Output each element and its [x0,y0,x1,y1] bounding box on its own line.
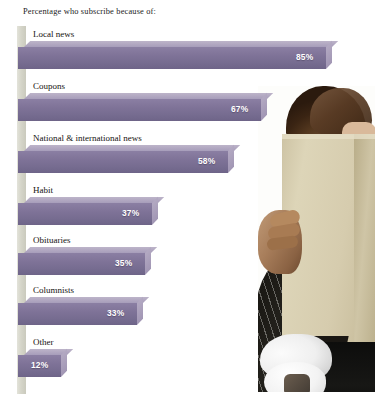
bar: 33% [18,297,143,325]
bar-value-label: 35% [115,258,132,268]
bar-category-label: Columnists [33,285,74,295]
bar-front-face [18,151,228,173]
bar-category-label: National & international news [33,133,142,143]
bar-end-cap [326,41,332,69]
bar-front-face [18,47,326,69]
bar-category-label: Habit [33,185,53,195]
bar-chart: Percentage who subscribe because of: Loc… [0,0,387,408]
bar-end-cap [61,349,67,377]
bar-front-face [18,99,261,121]
bar: 12% [18,349,67,377]
bar: 85% [18,41,332,69]
bar-category-label: Other [33,337,54,347]
bar: 58% [18,145,234,173]
bar-end-cap [145,247,151,275]
bar-category-label: Coupons [33,81,65,91]
chart-title: Percentage who subscribe because of: [23,7,156,16]
bar: 37% [18,197,158,225]
bar-value-label: 33% [107,308,124,318]
bar-value-label: 85% [296,52,313,62]
chart-figure: Percentage who subscribe because of: Loc… [0,0,387,408]
bar-value-label: 12% [31,360,48,370]
bar-end-cap [152,197,158,225]
bar-end-cap [137,297,143,325]
bar-category-label: Local news [33,29,74,39]
bar-value-label: 37% [122,208,139,218]
bar-end-cap [228,145,234,173]
bar-end-cap [261,93,267,121]
bar: 35% [18,247,151,275]
bar-value-label: 67% [231,104,248,114]
bar-category-label: Obituaries [33,235,71,245]
bar-value-label: 58% [198,156,215,166]
bar: 67% [18,93,267,121]
